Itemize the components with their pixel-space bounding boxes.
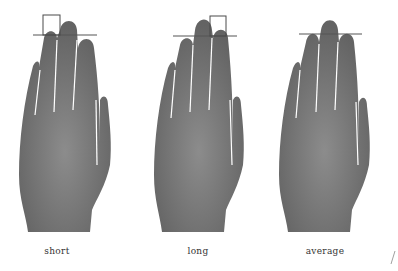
hand-short-icon xyxy=(0,0,132,240)
corner-mark-icon xyxy=(390,251,396,265)
figure-label: average xyxy=(259,246,391,256)
hand-long-icon xyxy=(140,0,272,240)
hand-figure-short: short xyxy=(0,0,132,271)
figure-label: long xyxy=(132,246,264,256)
figure-label: short xyxy=(0,246,123,256)
hand-figure-average: average xyxy=(266,0,398,271)
hand-figure-long: long xyxy=(140,0,272,271)
hand-average-icon xyxy=(266,0,398,240)
hand-silhouette xyxy=(19,21,111,232)
